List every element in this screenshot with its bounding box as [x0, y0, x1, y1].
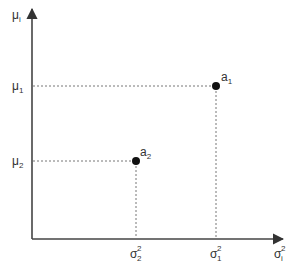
svg-text:2: 2: [281, 244, 286, 253]
x-axis-label: σ 2 i: [274, 244, 286, 263]
svg-text:2: 2: [137, 244, 142, 253]
guide-lines: [33, 86, 216, 238]
y-tick-mu2: μ2: [12, 154, 24, 170]
point-a2: [132, 157, 140, 165]
mean-variance-diagram: μi μ1 μ2 σ 2 2 σ 2 1 σ 2 i a1 a2: [0, 0, 297, 270]
y-tick-mu1: μ1: [12, 79, 24, 95]
svg-text:1: 1: [217, 254, 222, 263]
x-tick-sigma2-squared: σ 2 2: [130, 244, 142, 263]
point-a1-label: a1: [221, 70, 233, 86]
x-tick-sigma1-squared: σ 2 1: [210, 244, 222, 263]
point-a1: [212, 82, 220, 90]
svg-text:2: 2: [217, 244, 222, 253]
point-a2-label: a2: [140, 145, 152, 161]
svg-text:i: i: [281, 254, 283, 263]
svg-text:2: 2: [137, 254, 142, 263]
y-axis-label: μi: [12, 8, 21, 24]
